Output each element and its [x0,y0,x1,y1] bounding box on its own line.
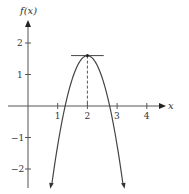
y-axis-label: f(x) [19,5,37,16]
annotations [71,54,104,106]
x-tick-label: 2 [84,111,90,121]
curve-left-arrow-icon [49,183,54,189]
y-tick-label: −2 [11,164,24,174]
y-tick-label: −1 [11,133,24,143]
x-tick-label: 1 [55,111,61,121]
x-tick-label: 3 [114,111,120,121]
maximum-point [86,54,89,57]
y-axis-arrow-icon [25,20,31,27]
x-axis-arrow-icon [159,103,166,109]
curve-layer [49,56,125,189]
x-axis-label: x [168,100,174,111]
curve-right-arrow-icon [121,183,126,189]
parabola-chart: 123421−1−2 f(x) x [0,0,189,194]
y-tick-label: 1 [17,70,23,80]
x-tick-label: 4 [144,111,150,121]
y-tick-label: 2 [17,38,23,48]
